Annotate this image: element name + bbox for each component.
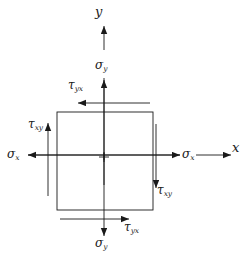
sigma-x-right-label: σx xyxy=(182,148,194,162)
y-axis-label: y xyxy=(95,5,102,18)
stress-element-square xyxy=(57,112,153,210)
x-axis-label: x xyxy=(232,141,239,154)
sigma-y-top-label: σy xyxy=(95,59,107,73)
tau-xy-right-label: τxy xyxy=(157,184,172,198)
tau-yx-top-label: τyx xyxy=(68,79,83,93)
tau-yx-bottom-label: τyx xyxy=(124,221,139,235)
stress-element-figure: y x σy σy σx σx τyx τyx τxy τxy xyxy=(0,0,248,260)
sigma-y-bottom-label: σy xyxy=(95,237,107,251)
sigma-x-left-label: σx xyxy=(7,148,19,162)
tau-xy-left-label: τxy xyxy=(28,118,43,132)
